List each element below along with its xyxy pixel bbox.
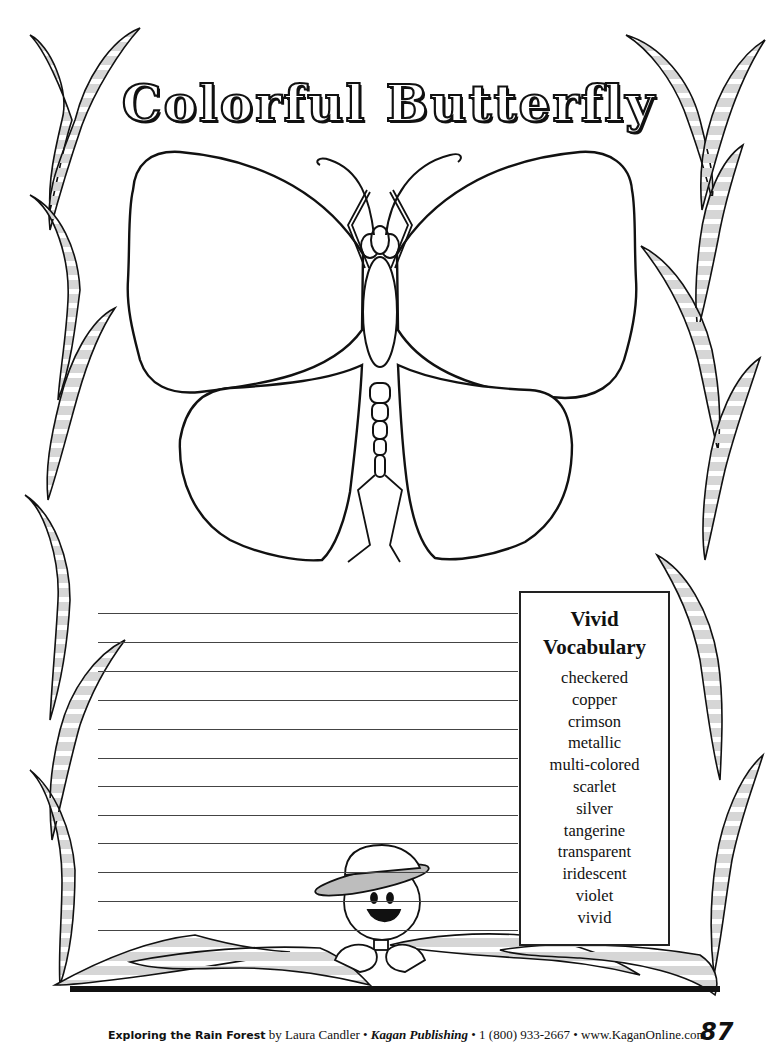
writing-line[interactable] <box>98 758 518 759</box>
writing-line[interactable] <box>98 700 518 701</box>
vocabulary-word: silver <box>521 798 668 820</box>
worksheet-page: Colorful Butterfly Vivid Vocabulary chec… <box>0 0 778 1055</box>
writing-line[interactable] <box>98 786 518 787</box>
vocabulary-word: vivid <box>521 907 668 929</box>
page-title: Colorful Butterfly <box>0 74 778 133</box>
ground-bar <box>70 986 720 992</box>
vocabulary-word: copper <box>521 689 668 711</box>
vocabulary-word: checkered <box>521 667 668 689</box>
writing-line[interactable] <box>98 930 518 931</box>
vocabulary-heading-line2: Vocabulary <box>521 633 668 661</box>
vocabulary-word: scarlet <box>521 776 668 798</box>
vocabulary-heading: Vivid Vocabulary <box>521 605 668 661</box>
writing-line[interactable] <box>98 729 518 730</box>
footer-credit: Exploring the Rain Forest by Laura Candl… <box>108 1027 707 1043</box>
writing-line[interactable] <box>98 671 518 672</box>
writing-line[interactable] <box>98 815 518 816</box>
left-vine-icon <box>25 28 140 985</box>
footer-book-title: Exploring the Rain Forest <box>108 1029 266 1042</box>
writing-line[interactable] <box>98 613 518 614</box>
vocabulary-word: tangerine <box>521 820 668 842</box>
vocabulary-heading-line1: Vivid <box>521 605 668 633</box>
vocabulary-word: iridescent <box>521 863 668 885</box>
vocabulary-list: checkered copper crimson metallic multi-… <box>521 667 668 929</box>
vocabulary-word: multi-colored <box>521 754 668 776</box>
footer-author: by Laura Candler • <box>266 1027 371 1042</box>
writing-line[interactable] <box>98 843 518 844</box>
page-number: 87 <box>700 1018 733 1046</box>
vocabulary-word: transparent <box>521 841 668 863</box>
writing-line[interactable] <box>98 642 518 643</box>
footer-contact: • 1 (800) 933-2667 • www.KaganOnline.com <box>468 1027 707 1042</box>
writing-line[interactable] <box>98 872 518 873</box>
vocabulary-box: Vivid Vocabulary checkered copper crimso… <box>519 591 670 946</box>
vocabulary-word: crimson <box>521 711 668 733</box>
writing-line[interactable] <box>98 901 518 902</box>
vocabulary-word: metallic <box>521 732 668 754</box>
footer-publisher: Kagan Publishing <box>371 1027 468 1042</box>
vocabulary-word: violet <box>521 885 668 907</box>
